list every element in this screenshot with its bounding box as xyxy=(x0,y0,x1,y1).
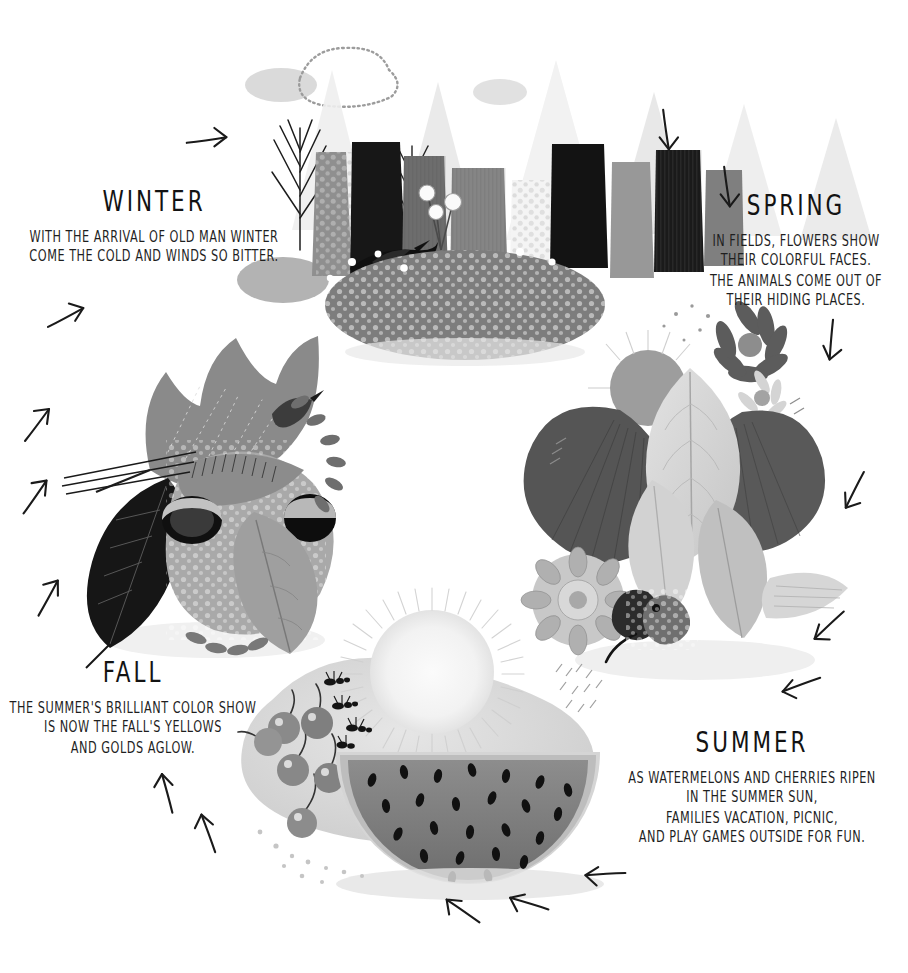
arrow-head xyxy=(822,339,843,360)
arrow-shaft xyxy=(646,110,686,150)
season-body-line: IN THE SUMMER SUN, xyxy=(610,788,895,808)
flow-arrow-icon xyxy=(447,898,480,923)
arrow-head xyxy=(43,581,60,598)
flow-arrow-icon xyxy=(813,320,850,360)
flow-arrow-icon xyxy=(840,472,869,508)
arrow-shaft xyxy=(22,481,47,514)
season-block-summer: SUMMER AS WATERMELONS AND CHERRIES RIPEN… xyxy=(602,727,902,838)
seasons-cycle-poster: WINTER WITH THE ARRIVAL OF OLD MAN WINTE… xyxy=(0,0,908,973)
flow-arrow-icon xyxy=(510,887,548,920)
season-body-winter: WITH THE ARRIVAL OF OLD MAN WINTERCOME T… xyxy=(21,227,287,267)
flow-arrow-icon xyxy=(147,774,187,813)
season-body-line: WITH THE ARRIVAL OF OLD MAN WINTER xyxy=(21,227,287,247)
season-title-fall: FALL xyxy=(12,653,253,691)
season-body-line: AND PLAY GAMES OUTSIDE FOR FUN. xyxy=(610,828,895,848)
flow-arrow-icon xyxy=(815,607,844,643)
arrow-head xyxy=(193,815,214,836)
arrow-head xyxy=(585,866,606,887)
arrow-head xyxy=(63,302,83,322)
flow-arrow-icon xyxy=(48,298,83,337)
season-body-line: FAMILIES VACATION, PICNIC, xyxy=(610,808,895,828)
season-body-line: IN FIELDS, FLOWERS SHOW xyxy=(693,231,898,251)
season-body-fall: THE SUMMER'S BRILLIANT COLOR SHOWIS NOW … xyxy=(9,698,258,758)
season-body-line: THEIR HIDING PLACES. xyxy=(693,291,898,311)
flow-arrow-icon xyxy=(188,815,228,853)
flow-arrow-icon xyxy=(22,481,47,514)
flow-arrow-icon xyxy=(585,855,625,894)
arrow-head xyxy=(815,624,832,641)
season-body-line: AND GOLDS AGLOW. xyxy=(9,738,258,758)
flow-arrow-icon xyxy=(187,120,227,160)
season-body-line: IS NOW THE FALL'S YELLOWS xyxy=(9,718,258,738)
season-block-fall: FALL THE SUMMER'S BRILLIANT COLOR SHOWIS… xyxy=(2,657,264,751)
arrow-shaft xyxy=(813,320,850,360)
arrow-head xyxy=(783,679,804,700)
flow-arrow-icon xyxy=(25,409,49,441)
flow-arrow-icon xyxy=(646,110,686,150)
season-body-summer: AS WATERMELONS AND CHERRIES RIPENIN THE … xyxy=(610,768,895,847)
arrow-shaft xyxy=(447,898,480,923)
flow-arrow-icon xyxy=(34,581,62,616)
season-body-line: COME THE COLD AND WINDS SO BITTER. xyxy=(21,247,287,267)
season-body-spring: IN FIELDS, FLOWERS SHOWTHEIR COLORFUL FA… xyxy=(693,231,898,310)
season-title-winter: WINTER xyxy=(25,182,283,220)
season-body-line: THE ANIMALS COME OUT OF xyxy=(693,271,898,291)
arrow-shaft xyxy=(25,409,49,441)
arrow-shaft xyxy=(585,855,625,894)
season-title-summer: SUMMER xyxy=(614,723,890,761)
season-body-line: THEIR COLORFUL FACES. xyxy=(693,251,898,271)
season-body-line: THE SUMMER'S BRILLIANT COLOR SHOW xyxy=(9,698,258,718)
season-block-spring: SPRING IN FIELDS, FLOWERS SHOWTHEIR COLO… xyxy=(688,190,904,301)
flow-arrow-icon xyxy=(783,665,821,705)
arrow-shaft xyxy=(510,887,548,920)
season-title-spring: SPRING xyxy=(697,186,896,224)
season-block-winter: WINTER WITH THE ARRIVAL OF OLD MAN WINTE… xyxy=(14,186,294,262)
arrow-shaft xyxy=(187,120,227,160)
arrow-head xyxy=(843,490,860,507)
season-body-line: AS WATERMELONS AND CHERRIES RIPEN xyxy=(610,768,895,788)
